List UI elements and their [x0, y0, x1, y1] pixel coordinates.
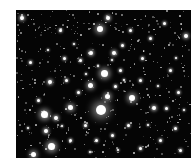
star	[84, 124, 87, 127]
faint-star	[30, 145, 31, 146]
faint-star	[39, 62, 41, 64]
faint-star	[76, 119, 77, 120]
faint-star	[132, 84, 134, 86]
faint-star	[83, 23, 85, 25]
faint-star	[178, 108, 179, 109]
faint-star	[134, 63, 136, 65]
faint-star	[159, 95, 160, 96]
faint-star	[178, 36, 180, 38]
faint-star	[70, 74, 71, 75]
star	[73, 43, 75, 45]
faint-star	[156, 20, 158, 22]
faint-star	[35, 29, 37, 31]
faint-star	[143, 97, 144, 98]
faint-star	[101, 20, 102, 21]
faint-star	[29, 134, 30, 135]
faint-star	[85, 134, 87, 136]
faint-star	[47, 61, 49, 63]
star	[65, 79, 68, 82]
faint-star	[77, 33, 78, 34]
faint-star	[117, 124, 118, 125]
star	[79, 59, 82, 62]
faint-star	[184, 139, 185, 140]
faint-star	[187, 146, 188, 147]
faint-star	[189, 104, 190, 105]
faint-star	[31, 132, 33, 134]
faint-star	[153, 61, 154, 62]
faint-star	[60, 56, 61, 57]
faint-star	[70, 101, 71, 102]
faint-star	[88, 67, 90, 69]
faint-star	[110, 64, 111, 65]
faint-star	[164, 130, 165, 131]
faint-star	[143, 136, 144, 137]
faint-star	[84, 121, 86, 123]
faint-star	[39, 142, 40, 143]
faint-star	[21, 74, 22, 75]
faint-star	[99, 24, 100, 25]
faint-star	[80, 117, 82, 119]
faint-star	[101, 97, 103, 99]
faint-star	[142, 146, 144, 148]
faint-star	[140, 42, 141, 43]
faint-star	[77, 22, 78, 23]
faint-star	[188, 123, 190, 125]
faint-star	[18, 35, 19, 36]
faint-star	[115, 23, 117, 25]
faint-star	[92, 43, 93, 44]
faint-star	[93, 23, 95, 25]
faint-star	[27, 14, 29, 16]
faint-star	[132, 27, 134, 29]
faint-star	[130, 67, 131, 68]
faint-star	[86, 122, 88, 124]
faint-star	[155, 143, 156, 144]
faint-star	[161, 153, 163, 155]
faint-star	[123, 139, 124, 140]
faint-star	[149, 106, 150, 107]
faint-star	[172, 44, 174, 46]
faint-star	[157, 130, 158, 131]
faint-star	[31, 70, 33, 72]
faint-star	[129, 80, 131, 82]
faint-star	[66, 132, 67, 133]
star	[97, 65, 99, 67]
faint-star	[45, 27, 46, 28]
faint-star	[153, 29, 154, 30]
faint-star	[94, 151, 95, 152]
faint-star	[18, 96, 19, 97]
faint-star	[81, 79, 82, 80]
faint-star	[55, 156, 57, 158]
star	[165, 107, 168, 110]
star	[147, 124, 149, 126]
faint-star	[78, 61, 79, 62]
star	[127, 124, 130, 127]
faint-star	[167, 121, 169, 123]
faint-star	[185, 45, 186, 46]
faint-star	[63, 97, 64, 98]
faint-star	[181, 28, 183, 30]
faint-star	[42, 83, 43, 84]
faint-star	[32, 105, 33, 106]
faint-star	[107, 64, 109, 66]
faint-star	[121, 14, 123, 16]
faint-star	[35, 124, 37, 126]
faint-star	[21, 60, 23, 62]
faint-star	[17, 40, 19, 42]
star	[37, 99, 40, 102]
faint-star	[21, 50, 23, 52]
star	[112, 51, 116, 55]
faint-star	[71, 114, 72, 115]
faint-star	[138, 39, 140, 41]
faint-star	[32, 78, 34, 80]
star	[183, 109, 185, 111]
faint-star	[62, 140, 63, 141]
faint-star	[175, 99, 176, 100]
faint-star	[154, 157, 155, 158]
faint-star	[136, 103, 138, 105]
faint-star	[179, 104, 180, 105]
star	[48, 143, 55, 150]
faint-star	[172, 100, 174, 102]
faint-star	[56, 43, 57, 44]
faint-star	[55, 77, 56, 78]
faint-star	[39, 26, 41, 28]
